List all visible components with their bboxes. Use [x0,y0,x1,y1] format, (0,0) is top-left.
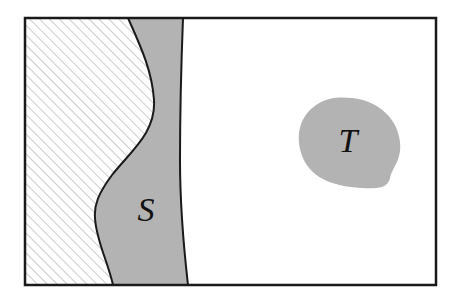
set-diagram-svg: S T [0,0,461,307]
region-s-label: S [138,191,155,228]
figure-container: S T [0,0,461,307]
region-t-label: T [339,122,360,159]
